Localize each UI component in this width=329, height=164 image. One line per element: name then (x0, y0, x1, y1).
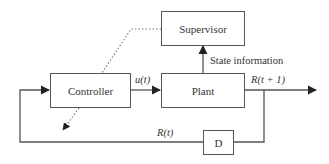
plant-label: Plant (192, 85, 215, 97)
supervisor-block: Supervisor (161, 11, 245, 46)
supervisor-dotted-link (102, 29, 161, 73)
state-information-label: State information (210, 55, 283, 66)
feedback-label: R(t) (157, 127, 173, 138)
delay-block: D (203, 130, 234, 155)
supervisor-label: Supervisor (179, 23, 227, 35)
output-label: R(t + 1) (251, 74, 285, 85)
plant-block: Plant (161, 73, 245, 108)
supervisor-adjust-arrow (63, 108, 79, 130)
controller-label: Controller (68, 85, 113, 97)
controller-block: Controller (50, 73, 131, 108)
delay-label: D (215, 137, 223, 149)
control-signal-label: u(t) (135, 74, 150, 85)
